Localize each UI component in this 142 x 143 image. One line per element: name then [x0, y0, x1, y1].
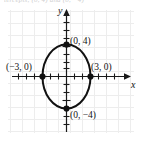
point-marker-right [87, 73, 93, 79]
x-axis-label: x [130, 79, 136, 90]
y-axis [63, 9, 70, 132]
point-label-top: (0, 4) [70, 36, 91, 47]
x-axis [12, 73, 131, 80]
point-marker-left [39, 73, 45, 79]
point-label-right: (3, 0) [91, 62, 112, 73]
coordinate-graph-figure: tercepts, (0, 4) and (0, −4) [0, 0, 142, 143]
y-axis-label: y [57, 5, 63, 16]
point-marker-bottom [63, 105, 69, 111]
point-label-left: (−3, 0) [6, 62, 32, 73]
graph-canvas: (0, 4) (3, 0) (−3, 0) (0, −4) y x [0, 0, 142, 143]
point-marker-top [63, 41, 69, 47]
point-label-bottom: (0, −4) [70, 110, 96, 121]
